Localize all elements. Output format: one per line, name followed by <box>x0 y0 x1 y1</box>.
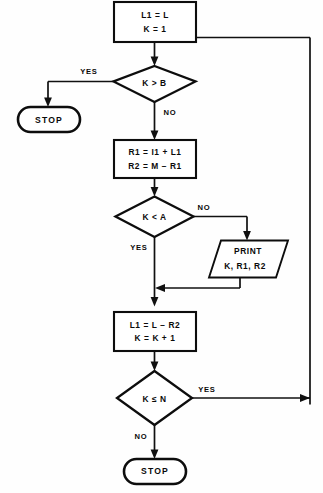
node-update-process: L1 = L − R2 K = K + 1 <box>114 312 196 351</box>
label-klta-yes: YES <box>130 243 147 252</box>
update-line1: L1 = L − R2 <box>130 320 181 330</box>
compute-line2: R2 = M − R1 <box>128 161 182 171</box>
connector-klen-no-to-stop <box>151 425 159 459</box>
label-klen-yes: YES <box>198 385 215 394</box>
init-line2: K = 1 <box>143 24 166 34</box>
label-klen-no: NO <box>135 432 148 441</box>
init-line1: L1 = L <box>141 10 169 20</box>
connector-update-to-klen <box>151 351 159 371</box>
decision-klta-label: K < A <box>142 212 166 222</box>
label-kgtb-yes: YES <box>80 67 97 76</box>
node-stop-bottom: STOP <box>124 459 186 484</box>
connector-compute-to-klta <box>151 178 159 197</box>
flowchart-diagram: L1 = L K = 1 K > B STOP R1 = I1 + L1 R2 … <box>0 0 323 493</box>
label-kgtb-no: NO <box>164 108 177 117</box>
update-line2: K = K + 1 <box>135 333 176 343</box>
decision-kgtb-label: K > B <box>142 78 166 88</box>
flowchart-canvas: L1 = L K = 1 K > B STOP R1 = I1 + L1 R2 … <box>0 0 323 493</box>
stop-top-label: STOP <box>35 115 63 125</box>
connector-klta-no-to-print <box>194 217 251 241</box>
decision-klen-label: K ≤ N <box>142 394 166 404</box>
connector-kgtb-yes-to-stop <box>44 82 113 108</box>
connector-kgtb-no-to-compute <box>151 102 159 140</box>
node-stop-top: STOP <box>18 107 80 132</box>
node-decision-k-less-a: K < A <box>116 197 194 238</box>
connector-init-to-kgtb <box>151 42 159 66</box>
connector-print-to-spine <box>155 278 240 293</box>
label-klta-no: NO <box>198 203 211 212</box>
print-line1: PRINT <box>234 246 262 256</box>
node-print-io: PRINT K, R1, R2 <box>209 241 288 278</box>
connector-klta-yes-down <box>151 237 159 307</box>
node-init-process: L1 = L K = 1 <box>114 2 196 42</box>
connector-klen-yes-to-loop <box>192 394 310 402</box>
node-decision-k-le-n: K ≤ N <box>117 371 192 425</box>
stop-bottom-label: STOP <box>141 466 169 476</box>
compute-line1: R1 = I1 + L1 <box>128 147 181 157</box>
print-line2: K, R1, R2 <box>224 261 266 271</box>
node-compute-process: R1 = I1 + L1 R2 = M − R1 <box>114 140 196 178</box>
node-decision-k-greater-b: K > B <box>114 66 196 102</box>
